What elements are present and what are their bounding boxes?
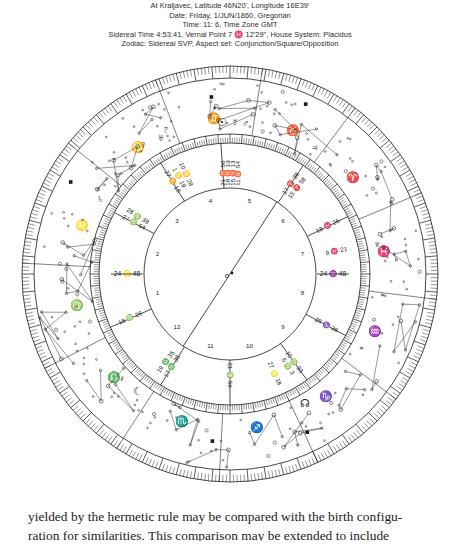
zodiac-glyph-aries: ♈ [346, 171, 360, 184]
planet-glyph-node: ☊ [300, 397, 310, 409]
sign-division-spoke [22, 263, 90, 267]
planet-glyph-mercury: ☿ [231, 116, 239, 128]
sign-division-spoke [314, 108, 355, 162]
chart-header: At Kraljavec, Latitude 46N20', Longitude… [0, 0, 460, 49]
cusp-label-cusp-9c: 27 ♌ 18 [266, 360, 284, 387]
sign-division-spoke [369, 291, 436, 299]
house-number: 11 [207, 342, 214, 349]
house-number: 4 [209, 197, 213, 204]
book-page: At Kraljavec, Latitude 46N20', Longitude… [0, 0, 460, 544]
house-number: 1 [156, 289, 160, 296]
house-number: 7 [301, 250, 305, 257]
body-text-line-2: ration for similarities. This comparison… [28, 527, 432, 541]
house-number: 3 [175, 217, 179, 224]
house-number: 12 [174, 323, 181, 330]
house-number: 5 [248, 197, 252, 204]
cusp-label-cusp-10: 21 ♍ 56 [226, 362, 234, 388]
house-number: 6 [281, 217, 285, 224]
header-line-location: At Kraljavec, Latitude 46N20', Longitude… [0, 1, 460, 11]
header-line-time: Time: 11: 6, Time Zone GMT [0, 20, 460, 30]
cusp-label-cusp-6: 18 ♓ 26 [315, 217, 342, 235]
header-line-date: Date: Friday, 1/JUN/1860, Gregorian [0, 11, 460, 21]
chart-wheel-svg: 123456789101112♋♊♉♈♓♒♑♐♏♎♍♌☉☿♂♀♅♇♄♃♆☾☊24… [14, 52, 446, 502]
zodiac-glyph-scorpio: ♏ [175, 415, 189, 428]
sign-division-spoke [359, 193, 422, 220]
cusp-label-cusp-8: 28 ♑ 38 [313, 315, 340, 334]
astrology-chart: 123456789101112♋♊♉♈♓♒♑♐♏♎♍♌☉☿♂♀♅♇♄♃♆☾☊24… [14, 52, 446, 502]
body-text-line-1: yielded by the hermetic rule may be comp… [28, 508, 432, 527]
cusp-label-cusp-4d: 11 ♉ 54 [234, 160, 242, 185]
aspect-line [183, 202, 277, 346]
planet-glyph-saturn: ♄ [96, 192, 104, 204]
header-line-sidereal: Sidereal Time 4:53:41, Vernal Point 7 ♓ … [0, 30, 460, 40]
zodiac-glyph-aquarius: ♒ [368, 325, 382, 338]
planet-glyph-jupiter: ♃ [311, 141, 319, 153]
planet-glyph-pluto: ♇ [162, 123, 170, 135]
zodiac-glyph-capricorn: ♑ [319, 390, 333, 403]
planet-glyph-venus: ♀ [139, 138, 147, 150]
planet-glyph-mars: ♂ [242, 117, 250, 129]
header-line-zodiac: Zodiac: Sidereal SVP, Aspect set: Conjun… [0, 39, 460, 49]
planet-glyph-neptune: ♆ [373, 238, 381, 250]
sign-division-spoke [219, 414, 223, 482]
body-text: yielded by the hermetic rule may be comp… [28, 508, 432, 541]
house-number: 10 [246, 342, 253, 349]
sign-division-spoke [289, 401, 318, 463]
zodiac-glyph-taurus: ♉ [286, 124, 300, 137]
house-number: 2 [156, 250, 160, 257]
aspect-node-marker [231, 272, 234, 275]
planet-glyph-moon: ☾ [133, 385, 143, 397]
house-number: 9 [281, 323, 285, 330]
sign-division-spoke [68, 143, 121, 186]
house-number: 8 [301, 289, 305, 296]
sign-division-spoke [45, 338, 106, 369]
cusp-label-cusp-6b: 6 ♓ 21 [325, 245, 348, 257]
aspect-node-marker [225, 274, 228, 277]
sign-division-spoke [252, 69, 263, 136]
cusp-label-cusp-12: 18 ♍ 26 [117, 309, 144, 327]
zodiac-glyph-libra: ♎ [107, 371, 121, 384]
zodiac-glyph-sagittarius: ♐ [250, 421, 264, 434]
